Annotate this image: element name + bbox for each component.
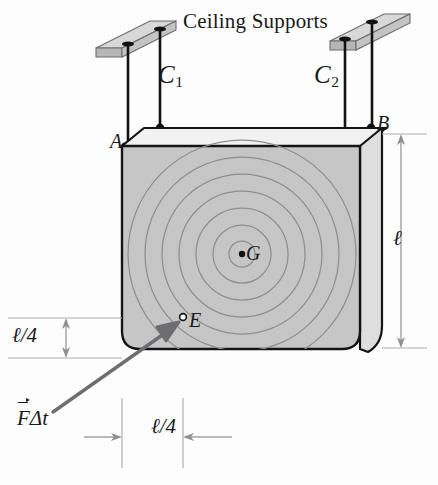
center-of-mass-dot-g [239,251,245,257]
cable-c1-back-nail-head [154,26,166,31]
cable-label-c1: C1 [158,62,183,90]
cable-label-c2: C2 [314,62,339,90]
block-top-face [122,128,386,146]
impulse-arrow [53,322,179,412]
point-label-a: A [110,131,122,151]
ceiling-support-right [330,14,410,50]
impulse-label-f-vector: F [17,408,30,429]
ceiling-support-left [96,21,176,57]
dimension-label-ell: ℓ [393,228,402,249]
cable-label-c1-subscript: 1 [175,73,183,90]
cable-label-c2-subscript: 2 [331,73,339,90]
ceiling-supports-title: Ceiling Supports [183,11,328,32]
cable-label-c1-letter: C [158,61,175,88]
point-label-e: E [189,310,201,330]
dimension-label-ell-quarter-horizontal: ℓ/4 [151,416,176,437]
point-label-b: B [377,113,389,133]
impulse-arrow-shaft [53,331,168,412]
diagram-canvas [0,0,438,485]
impact-point-dot-e [180,314,187,321]
dimension-ell [382,134,427,348]
impulse-label-delta-t: Δt [30,406,48,430]
dimension-label-ell-quarter-vertical: ℓ/4 [12,325,37,346]
cable-c2-back-nail-head [366,19,378,24]
physics-diagram-figure: Ceiling Supports C1 C2 A B G E ℓ ℓ/4 ℓ/4… [0,0,438,485]
cable-label-c2-letter: C [314,61,331,88]
point-label-g: G [246,243,260,263]
impulse-label: FΔt [17,408,48,429]
cable-c1-front-nail-head [122,41,134,46]
support-left-front-face [96,48,122,57]
block-side-face [360,128,382,352]
cable-c2-front-nail-head [339,36,351,41]
support-right-front-face [330,41,356,50]
